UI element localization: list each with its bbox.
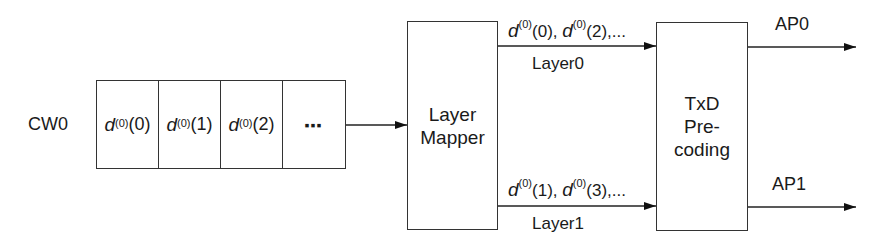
superscript: (0)	[239, 117, 252, 129]
symbol: d	[104, 114, 115, 136]
index: (1)	[191, 114, 213, 135]
superscript: (0)	[519, 18, 532, 30]
codeword-cell-1: d(0)(1)	[159, 81, 221, 168]
index: (2)	[586, 22, 607, 41]
symbol: d	[508, 20, 519, 41]
codeword-cell-ellipsis: ▪▪▪	[283, 81, 344, 168]
layer-mapper-block: Layer Mapper	[407, 21, 498, 230]
symbol: d	[562, 20, 573, 41]
ap1-label: AP1	[772, 174, 806, 195]
codeword-cell-0: d(0)(0)	[97, 81, 159, 168]
index: (3)	[586, 181, 607, 200]
superscript: (0)	[573, 18, 586, 30]
precoding-line2: Pre-	[674, 115, 730, 138]
precoding-line3: coding	[674, 138, 730, 161]
symbol: d	[228, 114, 239, 136]
layer1-label: Layer1	[532, 214, 584, 234]
symbol: d	[508, 179, 519, 200]
codeword-cell-2: d(0)(2)	[221, 81, 283, 168]
superscript: (0)	[519, 177, 532, 189]
layer0-sequence: d(0)(0), d(0)(2),...	[508, 20, 626, 42]
codeword-block: d(0)(0) d(0)(1) d(0)(2) ▪▪▪	[96, 80, 346, 169]
layer-mapper-line2: Mapper	[420, 126, 484, 149]
tail: ,...	[607, 181, 626, 200]
symbol: d	[562, 179, 573, 200]
index: (1)	[532, 181, 553, 200]
separator: ,	[553, 22, 562, 41]
layer0-label: Layer0	[532, 54, 584, 74]
superscript: (0)	[573, 177, 586, 189]
ap0-label: AP0	[775, 14, 809, 35]
separator: ,	[553, 181, 562, 200]
index: (2)	[253, 114, 275, 135]
tail: ,...	[607, 22, 626, 41]
index: (0)	[129, 114, 151, 135]
layer-mapper-line1: Layer	[420, 103, 484, 126]
superscript: (0)	[177, 117, 190, 129]
precoding-block: TxD Pre- coding	[656, 22, 748, 231]
symbol: d	[166, 114, 177, 136]
codeword-label: CW0	[28, 114, 68, 135]
ellipsis-icon: ▪▪▪	[305, 117, 323, 133]
index: (0)	[532, 22, 553, 41]
superscript: (0)	[115, 117, 128, 129]
precoding-line1: TxD	[674, 92, 730, 115]
layer1-sequence: d(0)(1), d(0)(3),...	[508, 179, 626, 201]
